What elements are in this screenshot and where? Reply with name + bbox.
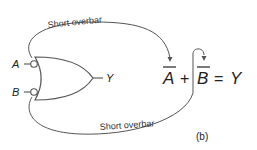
arrowhead-icon — [202, 56, 207, 61]
nand-or-diagram: A B Y Short overbar Short overbar A + B … — [0, 0, 257, 150]
figure-caption: (b) — [196, 131, 208, 142]
equation-term-b: B — [197, 69, 208, 88]
equation-term-a: A — [162, 69, 174, 88]
equation-plus: + — [180, 70, 189, 87]
bottom-annotation: Short overbar — [99, 118, 154, 132]
equation-equals: = — [214, 70, 223, 87]
or-gate — [35, 57, 93, 100]
output-label: Y — [106, 72, 114, 84]
equation-result: Y — [230, 69, 243, 88]
bubble-b — [31, 89, 38, 96]
arrowhead-icon — [168, 57, 173, 62]
input-a-label: A — [11, 58, 19, 70]
top-annotation: Short overbar — [47, 14, 102, 30]
input-b-label: B — [12, 86, 19, 98]
bubble-a — [31, 61, 38, 68]
